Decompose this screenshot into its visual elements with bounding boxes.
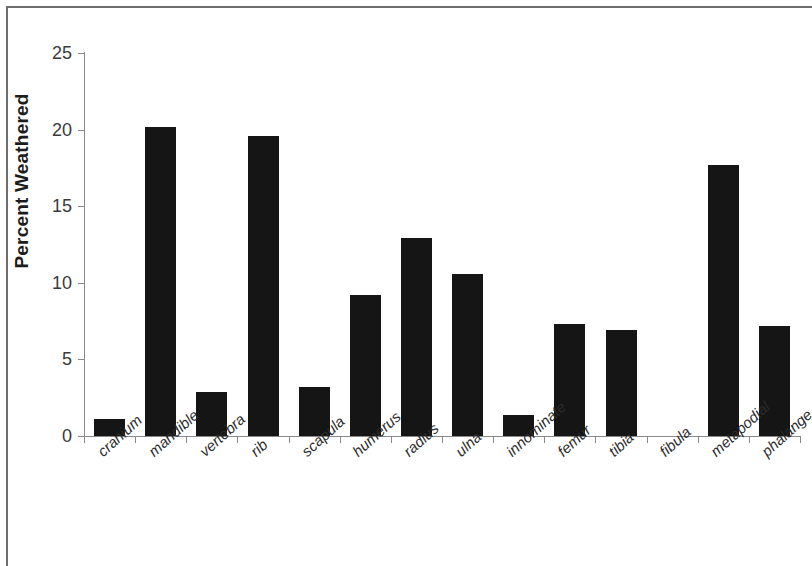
- y-tick-label: 20: [28, 121, 72, 139]
- x-tick-tibia: [595, 436, 596, 443]
- bar-radius: [401, 238, 432, 436]
- x-tick-mandible: [135, 436, 136, 443]
- y-tick-label: 15: [28, 197, 72, 215]
- bar-humerus: [350, 295, 381, 436]
- x-tick-rib: [237, 436, 238, 443]
- bar-tibia: [606, 330, 637, 436]
- x-tick-scapula: [289, 436, 290, 443]
- y-tick-label: 10: [28, 274, 72, 292]
- y-tick-label: 0: [28, 427, 72, 445]
- bar-ulna: [452, 274, 483, 436]
- y-tick-label: 25: [28, 44, 72, 62]
- x-tick-fibula: [647, 436, 648, 443]
- x-tick-metapodial: [698, 436, 699, 443]
- x-tick-humerus: [340, 436, 341, 443]
- x-tick-radius: [391, 436, 392, 443]
- bar-mandible: [145, 127, 176, 436]
- y-tick-label: 5: [28, 350, 72, 368]
- x-tick-vertebra: [186, 436, 187, 443]
- bar-rib: [248, 136, 279, 436]
- x-tick-ulna: [442, 436, 443, 443]
- x-tick-cranium: [84, 436, 85, 443]
- x-tick-innominate: [493, 436, 494, 443]
- x-tick-end: [800, 436, 801, 443]
- bar-metapodial: [708, 165, 739, 436]
- x-label-rib: rib: [247, 436, 271, 460]
- x-tick-femur: [544, 436, 545, 443]
- plot-area: [84, 53, 800, 436]
- bar-phalange: [759, 326, 790, 436]
- x-tick-phalange: [749, 436, 750, 443]
